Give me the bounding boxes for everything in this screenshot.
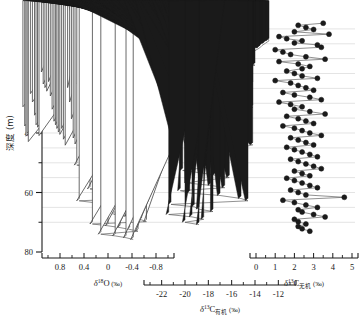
data-point-circle: [284, 36, 289, 41]
x-tick-label: 1: [273, 262, 277, 272]
data-point-circle: [296, 138, 301, 143]
x-tick-label: -22: [156, 289, 167, 299]
data-point-circle: [300, 171, 305, 176]
data-point-circle: [288, 157, 293, 162]
data-point-circle: [303, 25, 308, 30]
x-axis-title-d13c_org: δ13C有机 (‰): [200, 304, 240, 316]
y-tick-label: 80: [25, 247, 34, 257]
data-point-circle: [321, 21, 326, 26]
data-point-circle: [288, 52, 293, 57]
x-tick-label: 4: [331, 262, 336, 272]
data-point-circle: [288, 102, 293, 107]
data-point-circle: [300, 38, 305, 43]
data-point-circle: [292, 126, 297, 131]
x-axis-title-d18o: δ18O (‰): [94, 278, 122, 288]
data-point-circle: [273, 47, 278, 52]
x-tick-label: 0: [254, 262, 258, 272]
data-point-circle: [323, 112, 328, 117]
data-point-circle: [296, 190, 301, 195]
data-point-circle: [307, 64, 312, 69]
x-tick-label: 0.4: [79, 262, 90, 272]
data-point-circle: [300, 104, 305, 109]
data-point-circle: [303, 161, 308, 166]
axis-subscript: 有机: [215, 308, 227, 316]
x-tick-label: 5: [350, 262, 354, 272]
x-tick-label: 0.8: [55, 262, 66, 272]
data-point-circle: [300, 73, 305, 78]
x-tick-label: -12: [273, 289, 284, 299]
x-tick-label: 0: [106, 262, 110, 272]
data-point-circle: [307, 229, 312, 234]
data-point-circle: [307, 183, 312, 188]
data-point-circle: [292, 200, 297, 205]
data-point-circle: [303, 140, 308, 145]
data-point-circle: [300, 181, 305, 186]
data-point-circle: [323, 214, 328, 219]
data-point-circle: [307, 109, 312, 114]
data-point-circle: [292, 147, 297, 152]
data-point-circle: [315, 205, 320, 210]
data-point-circle: [284, 69, 289, 74]
data-point-circle: [273, 78, 278, 83]
data-point-circle: [284, 176, 289, 181]
data-point-circle: [327, 32, 332, 37]
y-axis-label: 深度 (m): [5, 115, 15, 151]
data-point-circle: [296, 116, 301, 121]
y-tick-label: 60: [25, 188, 34, 198]
data-point-circle: [296, 219, 301, 224]
data-point-circle: [303, 192, 308, 197]
axis-subscript: 无机: [299, 282, 311, 290]
data-point-circle: [277, 100, 282, 105]
data-point-circle: [292, 107, 297, 112]
data-point-circle: [319, 166, 324, 171]
x-tick-label: 3: [311, 262, 315, 272]
data-point-circle: [288, 81, 293, 86]
data-point-circle: [296, 23, 301, 28]
x-tick-label: -14: [249, 289, 261, 299]
data-point-circle: [315, 185, 320, 190]
data-point-circle: [280, 90, 285, 95]
data-point-circle: [303, 222, 308, 227]
x-tick-label: -16: [226, 289, 237, 299]
data-point-circle: [284, 114, 289, 119]
data-point-circle: [280, 123, 285, 128]
data-point-circle: [292, 92, 297, 97]
axis-unit: (‰): [311, 280, 324, 288]
data-point-circle: [303, 119, 308, 124]
data-point-circle: [277, 34, 282, 39]
x-tick-label: 2: [292, 262, 296, 272]
data-point-circle: [300, 226, 305, 231]
data-point-circle: [288, 135, 293, 140]
data-point-circle: [300, 150, 305, 155]
data-point-circle: [311, 88, 316, 93]
data-point-circle: [315, 76, 320, 81]
data-point-circle: [303, 54, 308, 59]
data-point-circle: [319, 97, 324, 102]
data-point-circle: [315, 154, 320, 159]
data-point-circle: [319, 45, 324, 50]
data-point-circle: [292, 29, 297, 34]
data-point-circle: [303, 85, 308, 90]
data-point-circle: [307, 95, 312, 100]
data-point-circle: [323, 57, 328, 62]
data-point-circle: [292, 178, 297, 183]
x-tick-label: -0.8: [149, 262, 162, 272]
data-point-circle: [300, 210, 305, 215]
data-point-circle: [277, 59, 282, 64]
data-point-circle: [292, 40, 297, 45]
data-point-circle: [280, 50, 285, 55]
isotope-depth-profile-figure: 020406080深度 (m)0.80.40-0.4-0.8δ18O (‰)-2…: [0, 0, 361, 319]
data-point-circle: [296, 62, 301, 67]
x-axis-d18o: 0.80.40-0.4-0.8δ18O (‰): [42, 253, 174, 288]
data-point-circle: [311, 27, 316, 32]
series-d13c_inorg: [273, 21, 347, 234]
data-point-circle: [307, 131, 312, 136]
data-point-circle: [280, 198, 285, 203]
data-point-circle: [311, 142, 316, 147]
x-tick-label: -18: [203, 289, 214, 299]
x-tick-label: -0.4: [125, 262, 139, 272]
data-point-circle: [288, 188, 293, 193]
data-point-circle: [307, 152, 312, 157]
axis-unit: (‰): [110, 280, 123, 288]
data-point-circle: [284, 145, 289, 150]
